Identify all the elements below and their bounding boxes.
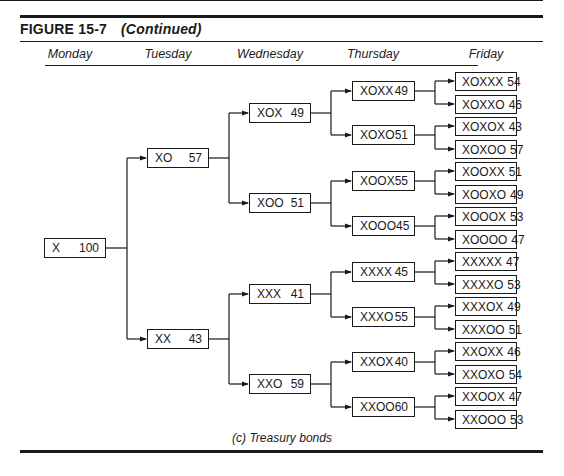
node-label: XOOXO — [462, 189, 506, 201]
node-label: X — [52, 242, 60, 254]
node-label: XXOX — [360, 356, 393, 368]
node-value: 57 — [510, 144, 523, 156]
node-label: XOXOX — [462, 121, 505, 133]
node-box: XXX 41 — [249, 284, 311, 304]
node-value: 49 — [395, 85, 408, 97]
node-value: 41 — [291, 288, 304, 300]
node-value: 49 — [510, 189, 523, 201]
node-value: 43 — [189, 333, 202, 345]
node-label: XOXXO — [462, 99, 505, 111]
node-value: 47 — [509, 391, 522, 403]
node-value: 46 — [507, 346, 520, 358]
node-box: XXOXX46 — [455, 342, 517, 361]
node-box: XOOOO47 — [455, 230, 517, 249]
node-value: 51 — [509, 324, 522, 336]
node-label: XXO — [257, 378, 282, 390]
node-box: XXXOX49 — [455, 297, 517, 316]
node-box: XOXOO57 — [455, 140, 517, 159]
node-label: XX — [155, 333, 171, 345]
node-label: XOOX — [360, 175, 395, 187]
node-box: XOXO 51 — [352, 125, 415, 145]
node-label: XXX — [257, 288, 281, 300]
node-value: 54 — [507, 76, 520, 88]
node-box: XOO 51 — [249, 193, 311, 213]
node-value: 57 — [189, 152, 202, 164]
node-value: 53 — [507, 279, 520, 291]
node-label: XXOXO — [462, 369, 505, 381]
node-box: XXXXO53 — [455, 275, 517, 294]
node-box: XOX 49 — [249, 103, 311, 123]
node-box: XOOOX53 — [455, 207, 517, 226]
node-label: XXOOO — [462, 414, 506, 426]
node-value: 53 — [510, 414, 523, 426]
node-value: 55 — [395, 311, 408, 323]
node-value: 55 — [395, 175, 408, 187]
node-label: XXXOO — [462, 324, 505, 336]
figure-caption: (c) Treasury bonds — [0, 431, 564, 445]
node-box: XXXO 55 — [352, 307, 415, 327]
node-label: XOX — [257, 107, 282, 119]
node-label: XXOXX — [462, 346, 503, 358]
node-box: XOXOX43 — [455, 117, 517, 136]
node-box: XXOXO54 — [455, 365, 517, 384]
node-box: XXXOO51 — [455, 320, 517, 339]
node-value: 47 — [506, 256, 519, 268]
node-box: XOOX 55 — [352, 171, 415, 191]
node-label: XXOO — [360, 401, 395, 413]
node-value: 100 — [79, 242, 99, 254]
node-box: XXO 59 — [249, 374, 311, 394]
node-label: XOXO — [360, 129, 395, 141]
node-value: 51 — [291, 197, 304, 209]
node-label: XOXOO — [462, 144, 506, 156]
node-value: 45 — [396, 220, 409, 232]
node-value: 45 — [395, 266, 408, 278]
node-label: XOOO — [360, 220, 396, 232]
node-value: 49 — [507, 301, 520, 313]
node-value: 59 — [291, 378, 304, 390]
node-box: XXOOX47 — [455, 387, 517, 406]
node-value: 60 — [395, 401, 408, 413]
node-box: XXXXX47 — [455, 252, 517, 271]
node-label: XOOOO — [462, 234, 507, 246]
node-box: XXXX 45 — [352, 262, 415, 282]
node-box: XX 43 — [147, 329, 209, 349]
node-box: XXOX 40 — [352, 352, 415, 372]
node-label: XXXXX — [462, 256, 502, 268]
node-label: XOOOX — [462, 211, 506, 223]
node-box: XXOO 60 — [352, 397, 415, 417]
node-box: XOOXO49 — [455, 185, 517, 204]
node-label: XXXOX — [462, 301, 503, 313]
node-box: XXOOO53 — [455, 410, 517, 429]
node-value: 51 — [395, 129, 408, 141]
node-value: 46 — [509, 99, 522, 111]
node-label: XO — [155, 152, 172, 164]
node-value: 47 — [511, 234, 524, 246]
node-box: XOXX 49 — [352, 81, 415, 101]
node-box: XOXXX54 — [455, 72, 517, 91]
node-value: 53 — [510, 211, 523, 223]
node-value: 54 — [509, 369, 522, 381]
node-label: XXOOX — [462, 391, 505, 403]
node-value: 43 — [509, 121, 522, 133]
node-box: X 100 — [44, 238, 106, 258]
node-value: 40 — [395, 356, 408, 368]
node-value: 51 — [509, 166, 522, 178]
node-box: XOXXO46 — [455, 95, 517, 114]
node-label: XOOXX — [462, 166, 505, 178]
node-box: XO 57 — [147, 148, 209, 168]
node-label: XOO — [257, 197, 284, 209]
bottom-thick-rule — [20, 450, 543, 453]
node-value: 49 — [291, 107, 304, 119]
node-label: XOXXX — [462, 76, 503, 88]
node-label: XOXX — [360, 85, 393, 97]
node-label: XXXX — [360, 266, 392, 278]
node-label: XXXO — [360, 311, 393, 323]
node-label: XXXXO — [462, 279, 503, 291]
node-box: XOOO 45 — [352, 216, 415, 236]
node-box: XOOXX51 — [455, 162, 517, 181]
